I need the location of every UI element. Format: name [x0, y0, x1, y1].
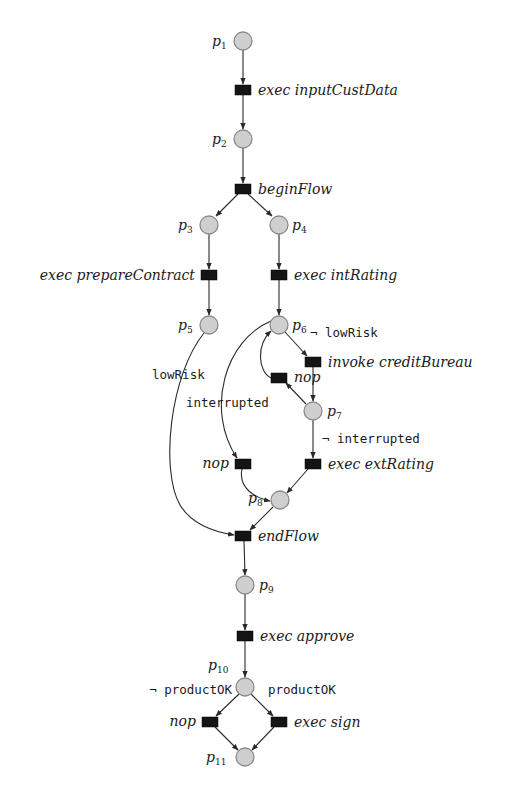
transition-label-endFlow: endFlow	[258, 528, 319, 544]
arc-endFlow-p9	[244, 541, 245, 575]
place-label-p5: p5	[178, 317, 193, 335]
arc-extRating-p8	[287, 469, 308, 493]
arc-nop-final-p11	[215, 727, 238, 750]
transition-approve[interactable]	[237, 631, 253, 641]
transition-creditBureau[interactable]	[305, 357, 321, 367]
transition-label-approve: exec approve	[260, 628, 354, 644]
transition-endFlow[interactable]	[235, 531, 251, 541]
transition-label-extRating: exec extRating	[328, 456, 434, 472]
transition-label-nop-loop: nop	[294, 369, 320, 385]
place-p5[interactable]	[200, 316, 218, 334]
arc-p7-nop-loop	[286, 383, 306, 404]
arc-beginFlow-p4	[248, 194, 272, 216]
transition-label-beginFlow: beginFlow	[258, 181, 332, 197]
place-p10[interactable]	[236, 678, 254, 696]
guard-interrupted: interrupted	[186, 395, 269, 410]
transition-label-creditBureau: invoke creditBureau	[328, 354, 473, 370]
place-p7[interactable]	[304, 402, 322, 420]
arc-p8-endFlow	[250, 507, 273, 530]
place-label-p6: p6	[292, 317, 307, 335]
guard-not-productOK: ¬ productOK	[149, 682, 232, 697]
transition-label-intRating: exec intRating	[294, 267, 397, 283]
place-p4[interactable]	[270, 216, 288, 234]
transition-nop-final[interactable]	[202, 717, 218, 727]
transition-beginFlow[interactable]	[235, 184, 251, 194]
transition-label-sign: exec sign	[294, 714, 360, 730]
transition-prepareContract[interactable]	[201, 270, 217, 280]
place-p11[interactable]	[236, 748, 254, 766]
guard-lowRisk: lowRisk	[152, 367, 205, 382]
guard-not-interrupted: ¬ interrupted	[322, 431, 420, 446]
transition-extRating[interactable]	[305, 459, 321, 469]
transition-intRating[interactable]	[271, 270, 287, 280]
petri-net-diagram: p1 p2 p3 p4 p5 p6 p7 p8 p9 p10 p11 exec …	[0, 0, 508, 799]
place-label-p7: p7	[327, 403, 342, 421]
transition-label-prepareContract: exec prepareContract	[40, 267, 196, 283]
transition-sign[interactable]	[271, 717, 287, 727]
arc-p10-nop-final	[216, 694, 239, 716]
place-p8[interactable]	[271, 491, 289, 509]
place-label-p10: p10	[208, 657, 229, 675]
place-label-p8: p8	[248, 490, 263, 508]
guard-productOK: productOK	[268, 682, 336, 697]
arc-p10-sign	[251, 694, 273, 716]
arc-beginFlow-p3	[216, 194, 238, 216]
place-label-p4: p4	[292, 217, 307, 235]
transition-nop-interrupt[interactable]	[235, 459, 251, 469]
place-p9[interactable]	[236, 576, 254, 594]
place-label-p11: p11	[206, 749, 226, 767]
arc-p6-creditBureau	[285, 332, 307, 356]
guard-not-lowRisk: ¬ lowRisk	[310, 325, 378, 340]
transition-label-nop-final: nop	[170, 713, 196, 729]
arc-nop-loop-p6	[260, 331, 271, 378]
transition-inputCustData[interactable]	[235, 85, 251, 95]
arc-p5-endFlow	[170, 333, 234, 535]
place-label-p1: p1	[212, 33, 227, 51]
transition-label-nop-interrupt: nop	[203, 455, 229, 471]
place-p2[interactable]	[234, 130, 252, 148]
place-p3[interactable]	[200, 216, 218, 234]
transition-label-inputCustData: exec inputCustData	[258, 82, 398, 98]
place-label-p9: p9	[259, 577, 274, 595]
place-p6[interactable]	[270, 316, 288, 334]
arc-sign-p11	[252, 727, 274, 750]
place-label-p3: p3	[178, 217, 193, 235]
transition-nop-loop[interactable]	[271, 373, 287, 383]
place-label-p2: p2	[212, 131, 227, 149]
place-p1[interactable]	[234, 32, 252, 50]
